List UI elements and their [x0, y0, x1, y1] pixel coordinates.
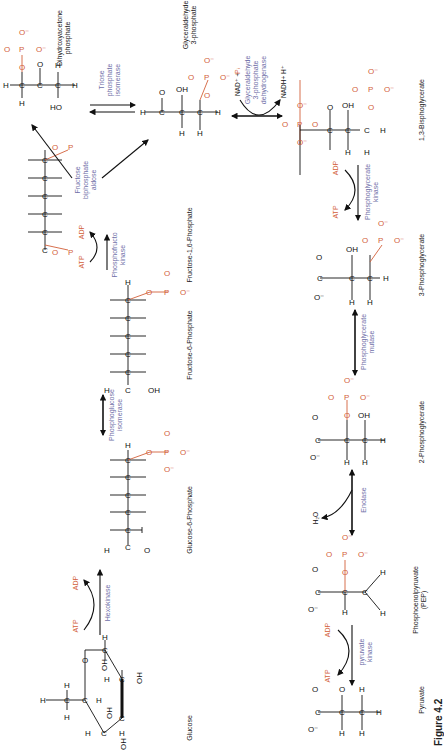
atom: H	[376, 708, 382, 717]
atom: P	[297, 120, 302, 129]
atom: C	[125, 368, 131, 377]
molecule-glucose: C O C C C C C H OH H OH H H H H OH H H O…	[40, 633, 144, 750]
atom: O	[316, 253, 322, 262]
atom: C	[345, 126, 351, 135]
atom: P	[344, 393, 349, 402]
cofactor-h2o: H₂O	[312, 512, 319, 524]
atom: H	[380, 436, 386, 445]
cofactor-nadh: NADH+ H⁺	[280, 65, 287, 98]
label-bpg: 1,3-Bisphoglycerate	[418, 79, 426, 141]
atom: C	[42, 228, 48, 237]
atom: OH	[135, 672, 144, 684]
molecule-f6p: P O O O⁻ C C C C C C H H OH	[104, 269, 190, 395]
atom: O	[164, 429, 170, 438]
atom: C	[42, 192, 48, 201]
atom: O⁻	[180, 288, 190, 297]
glycolysis-diagram: Glucose Glucose-6-Phosphate Fructose-6-P…	[0, 0, 444, 754]
cofactor-atp-3: ATP	[78, 255, 85, 268]
molecule-2pg: C C C O O⁻ O P O O⁻ O⁻ OH H H H	[310, 376, 386, 467]
atom: O	[352, 85, 358, 94]
atom: C	[315, 588, 321, 597]
atom: O	[164, 269, 170, 278]
atom: O⁻	[314, 293, 324, 302]
atom: H	[19, 99, 25, 108]
atom: O⁻	[204, 56, 214, 65]
molecule-3pg: C C C O O⁻ OH H H H P O O⁻ O⁻	[314, 219, 404, 307]
cofactor-pi: Pᵢ	[234, 68, 241, 74]
atom: H	[119, 729, 125, 738]
atom: O⁻	[180, 448, 190, 457]
atom: O⁻	[358, 550, 368, 559]
atom: OH	[346, 245, 358, 254]
label-g3p-1: Glyceraldehyde	[182, 1, 190, 50]
atom: O⁻	[19, 28, 29, 37]
cofactor-atp-10: ATP	[324, 669, 331, 682]
enzyme-enolase: Enolase	[360, 487, 367, 512]
atom: O⁻	[344, 376, 354, 385]
atom: C	[82, 696, 88, 705]
label-f16bp: Fructose-1,6-Phosphate	[186, 207, 194, 282]
atom: H	[40, 696, 46, 705]
atom: O	[312, 413, 318, 422]
atom: C	[42, 210, 48, 219]
atom: O⁻	[368, 67, 378, 76]
atom: C	[42, 246, 48, 255]
enzyme-gapdh-2: 3-phosphate	[252, 60, 260, 99]
atom: P	[378, 236, 383, 245]
atom: O⁻	[36, 45, 46, 54]
atom: H	[339, 729, 345, 738]
atom: HO	[50, 103, 62, 112]
atom: H	[380, 568, 386, 577]
atom: C	[349, 274, 355, 283]
enzyme-pfk-2: kinase	[119, 245, 126, 265]
atom: C	[179, 108, 185, 117]
atom: P	[68, 248, 73, 257]
atom: C	[125, 350, 131, 359]
molecule-pyruvate: C C C O O⁻ O H H H H	[308, 685, 382, 738]
cofactor-adp-10: ADP	[324, 622, 331, 637]
atom: O⁻	[342, 533, 352, 542]
atom: C	[362, 588, 368, 597]
atom: C	[344, 436, 350, 445]
atom: OH	[358, 411, 370, 420]
enzyme-pgk-1: Phosphoglycerate	[364, 164, 372, 220]
label-pep-2: (PEP)	[420, 591, 428, 610]
atom: O	[4, 45, 10, 54]
atom: O	[144, 546, 150, 555]
atom: O⁻	[220, 73, 230, 82]
atom: H	[104, 546, 110, 555]
enzyme-aldolase-3: aldose	[90, 170, 97, 191]
enzyme-tpi-2: phosphate	[106, 64, 114, 97]
label-pyruvate: Pyruvate	[418, 686, 426, 714]
enzyme-pfk-1: Phosphofructo	[111, 232, 119, 277]
atom: C	[367, 274, 373, 283]
atom: C	[125, 332, 131, 341]
atom: O⁻	[360, 393, 370, 402]
atom: O	[368, 103, 374, 112]
atom: O	[52, 248, 58, 257]
atom: OH	[119, 738, 128, 750]
atom: O	[312, 120, 318, 129]
atom: C	[55, 81, 61, 90]
molecule-pep: C C C O O⁻ O P O O⁻ O⁻ H H H	[308, 533, 386, 618]
atom: P	[68, 143, 73, 152]
enzyme-gapdh-1: Glyceraldehyde	[244, 56, 252, 105]
atom: H	[96, 696, 102, 705]
enzyme-mutase-2: mutase	[368, 330, 375, 353]
atom: O⁻	[297, 101, 307, 110]
atom: H	[344, 458, 350, 467]
atom: OH	[148, 386, 160, 395]
label-g6p: Glucose-6-Phosphate	[186, 486, 194, 554]
arrow-aldolase-g3p	[102, 140, 148, 178]
atom: C	[19, 81, 25, 90]
molecule-g3p: O P O O⁻ O⁻ C C C O H H OH H H	[140, 56, 230, 138]
atom: C	[339, 708, 345, 717]
atom: O	[326, 550, 332, 559]
atom: O	[82, 656, 88, 665]
atom: C	[362, 436, 368, 445]
atom: C	[125, 456, 131, 465]
label-glucose: Glucose	[186, 715, 193, 741]
atom: C	[125, 314, 131, 323]
atom: P	[368, 85, 373, 94]
atom: C	[342, 588, 348, 597]
